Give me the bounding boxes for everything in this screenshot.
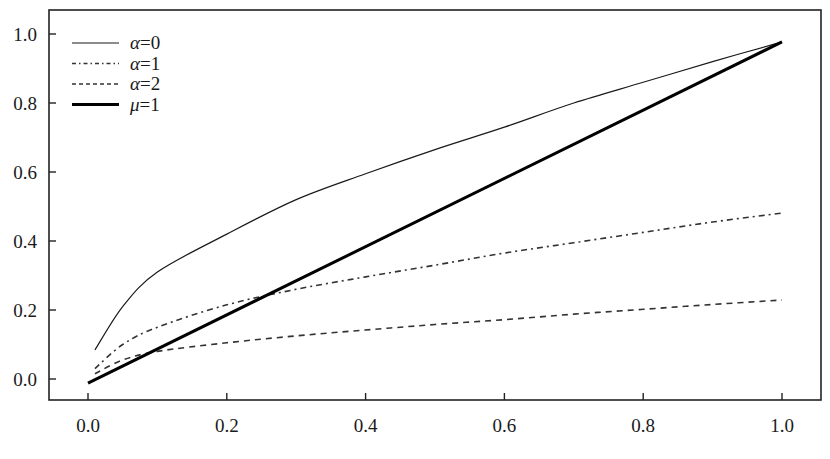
series-line-1: [95, 213, 782, 369]
x-tick-label: 0.2: [215, 415, 239, 436]
x-tick-label: 0.8: [631, 415, 655, 436]
y-tick-label: 0.4: [13, 231, 37, 252]
legend-label-0: α=0: [130, 32, 160, 53]
chart-container: 0.00.20.40.60.81.0 0.00.20.40.60.81.0 α=…: [0, 0, 830, 459]
legend-label-1: α=1: [130, 53, 160, 74]
series-line-0: [95, 42, 782, 350]
y-tick-label: 0.2: [13, 300, 37, 321]
legend-label-3: μ=1: [129, 94, 160, 115]
series-layer: [88, 42, 782, 383]
x-tick-label: 0.0: [76, 415, 100, 436]
y-tick-label: 0.6: [13, 162, 37, 183]
legend: α=0α=1α=2μ=1: [72, 32, 160, 115]
x-tick-label: 0.4: [354, 415, 378, 436]
series-line-3: [88, 42, 782, 383]
plot-frame: [49, 10, 821, 400]
y-tick-label: 0.8: [13, 93, 37, 114]
y-tick-label: 0.0: [13, 369, 37, 390]
series-line-2: [95, 300, 782, 374]
legend-label-2: α=2: [130, 73, 160, 94]
x-tick-label: 0.6: [493, 415, 517, 436]
line-chart: 0.00.20.40.60.81.0 0.00.20.40.60.81.0 α=…: [0, 0, 830, 459]
y-tick-label: 1.0: [13, 24, 37, 45]
x-tick-label: 1.0: [770, 415, 794, 436]
